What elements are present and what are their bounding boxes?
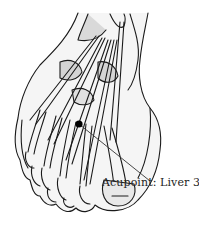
foot-illustration: [0, 0, 199, 225]
foot-acupoint-figure: Acupoint: Liver 3: [0, 0, 199, 225]
acupoint-marker: [75, 120, 82, 127]
acupoint-label: Acupoint: Liver 3: [102, 176, 199, 189]
